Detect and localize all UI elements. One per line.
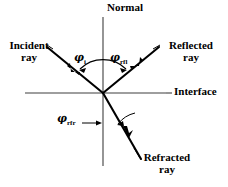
incident-ray-label: Incident ray bbox=[3, 40, 55, 63]
phi-subscript-reflected: rfl bbox=[120, 58, 127, 66]
reflected-ray-label-line2: ray bbox=[161, 52, 221, 64]
phi-symbol-incident: φ bbox=[74, 51, 84, 64]
angle-of-incidence-label: φi bbox=[74, 51, 86, 66]
phi-subscript-refracted: rfr bbox=[67, 119, 76, 127]
normal-axis-label: Normal bbox=[107, 2, 143, 14]
refracted-ray-label-line1: Refracted bbox=[136, 152, 198, 164]
refracted-ray-label: Refracted ray bbox=[136, 152, 198, 175]
refracted-ray-line bbox=[103, 93, 141, 159]
phi-symbol-refracted: φ bbox=[57, 112, 67, 125]
optics-refraction-diagram: Normal Interface Incident ray Reflected … bbox=[0, 0, 228, 187]
refracted-ray-label-line2: ray bbox=[136, 164, 198, 176]
refraction-label-leader-arrowhead bbox=[96, 121, 102, 126]
angle-of-reflection-label: φrfl bbox=[110, 51, 127, 66]
reflected-ray-label-line1: Reflected bbox=[161, 40, 221, 52]
interface-axis-label: Interface bbox=[174, 86, 217, 98]
phi-subscript-incident: i bbox=[84, 58, 86, 66]
incident-ray-label-line1: Incident bbox=[3, 40, 55, 52]
phi-symbol-reflected: φ bbox=[110, 51, 120, 64]
incident-ray-label-line2: ray bbox=[3, 52, 55, 64]
angle-of-refraction-label: φrfr bbox=[57, 112, 76, 127]
reflected-ray-label: Reflected ray bbox=[161, 40, 221, 63]
